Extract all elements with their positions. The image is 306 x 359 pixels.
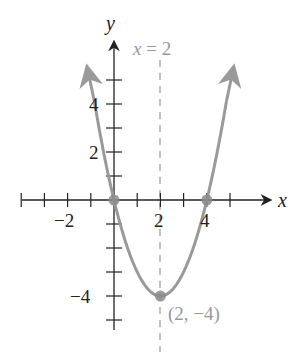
y-axis-label: y (104, 12, 115, 35)
vertex-label: (2, −4) (168, 303, 220, 325)
x-axis-label: x (277, 189, 287, 211)
x-tick-label-neg2: −2 (54, 210, 74, 231)
y-tick-label-2: 2 (89, 142, 99, 163)
y-tick-label-4: 4 (89, 94, 99, 115)
symmetry-label: x = 2 (132, 38, 171, 59)
key-point (109, 195, 120, 206)
key-point (201, 195, 212, 206)
y-tick-label-neg4: −4 (70, 286, 91, 307)
parabola-chart: y x x = 2 −2 2 4 4 2 −4 (2, −4) (0, 0, 306, 359)
key-point (155, 291, 166, 302)
x-tick-label-4: 4 (200, 210, 210, 231)
x-tick-label-2: 2 (154, 210, 164, 231)
curve-arrow-right (227, 68, 234, 101)
